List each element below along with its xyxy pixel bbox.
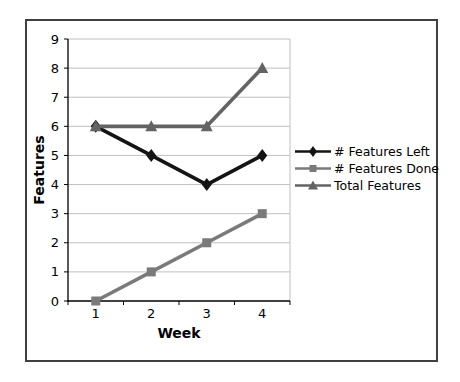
legend: # Features Left# Features DoneTotal Feat… [295,144,439,193]
x-tick-label: 2 [147,306,155,321]
series-marker-diamond-features-left [202,178,212,191]
series-marker-diamond-features-left [146,149,156,162]
legend-item: Total Features [295,178,439,193]
legend-marker-triangle-icon [295,179,331,192]
series-marker-square-features-done [91,297,100,306]
y-tick-label: 7 [51,90,59,105]
series-marker-square-features-done [258,209,267,218]
series-marker-square-features-done [147,267,156,276]
chart-frame: 01234567891234 Features Week # Features … [25,19,438,362]
y-tick-label: 6 [51,119,59,134]
legend-square-glyph [310,165,317,172]
y-tick-label: 2 [51,235,59,250]
series-line-features-done [96,214,263,301]
legend-label: # Features Done [334,161,439,176]
chart: 01234567891234 Features Week # Features … [0,0,460,382]
x-tick-label: 1 [92,306,100,321]
x-axis-title: Week [68,325,290,341]
y-tick-label: 1 [51,264,59,279]
y-tick-label: 8 [51,61,59,76]
y-tick-label: 9 [51,32,59,47]
legend-label: Total Features [334,178,421,193]
y-tick-label: 5 [51,148,59,163]
series-marker-square-features-done [202,238,211,247]
x-tick-label: 3 [203,306,211,321]
series-marker-diamond-features-left [257,149,267,162]
legend-label: # Features Left [334,144,430,159]
legend-diamond-glyph [309,146,317,157]
legend-item: # Features Left [295,144,439,159]
x-tick-label: 4 [258,306,266,321]
legend-item: # Features Done [295,161,439,176]
legend-marker-square-icon [295,162,331,175]
y-tick-label: 4 [51,177,59,192]
y-tick-label: 0 [51,294,59,309]
y-tick-label: 3 [51,206,59,221]
y-axis-title: Features [31,135,47,204]
legend-marker-diamond-icon [295,145,331,158]
